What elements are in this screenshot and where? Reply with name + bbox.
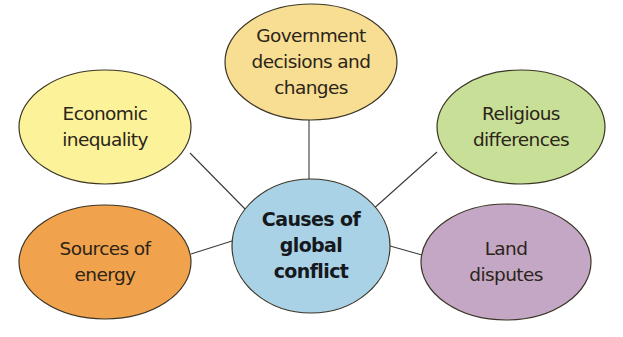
node-ellipse (437, 70, 605, 184)
node-economic: Economicinequality (19, 70, 191, 184)
node-label-line: conflict (274, 260, 349, 282)
node-label-line: differences (473, 129, 569, 150)
node-land: Landdisputes (421, 204, 591, 320)
node-religious: Religiousdifferences (437, 70, 605, 184)
connector-economic (190, 153, 247, 211)
node-label-line: Sources of (60, 238, 152, 259)
node-label-line: energy (75, 264, 137, 285)
node-label-line: disputes (469, 264, 542, 285)
node-label-line: changes (274, 77, 348, 98)
node-label-line: Economic (63, 103, 148, 124)
node-label-line: inequality (62, 129, 148, 150)
node-ellipse (19, 70, 191, 184)
connector-religious (371, 152, 437, 211)
node-label-line: Government (256, 25, 366, 46)
center-node: Causes ofglobalconflict (232, 179, 390, 313)
causes-of-conflict-diagram: Governmentdecisions andchangesEconomicin… (0, 0, 623, 337)
node-label-line: Causes of (262, 208, 362, 230)
node-ellipse (19, 205, 191, 319)
node-ellipse (421, 204, 591, 320)
node-government: Governmentdecisions andchanges (225, 4, 397, 120)
connector-land (390, 246, 422, 255)
node-energy: Sources ofenergy (19, 205, 191, 319)
node-label-line: Religious (482, 103, 560, 124)
node-label-line: Land (485, 238, 528, 259)
node-label-line: global (280, 234, 343, 256)
connector-energy (191, 241, 232, 254)
node-label-line: decisions and (252, 51, 371, 72)
